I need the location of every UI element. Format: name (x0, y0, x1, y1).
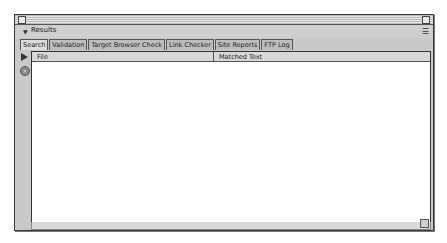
column-header-matched-text[interactable]: Matched Text (214, 52, 430, 62)
side-toolbar: × (19, 52, 29, 76)
tab-bar: Search Validation Target Browser Check L… (20, 39, 294, 50)
resize-grow-box[interactable] (420, 219, 429, 228)
horizontal-scrollbar[interactable] (31, 222, 431, 230)
tab-link-checker[interactable]: Link Checker (166, 39, 214, 50)
stop-icon[interactable]: × (20, 66, 30, 76)
tab-target-browser-check[interactable]: Target Browser Check (88, 39, 165, 50)
zoom-box[interactable] (422, 16, 430, 24)
tab-validation[interactable]: Validation (49, 39, 87, 50)
results-table: File Matched Text (31, 51, 431, 223)
options-menu-icon[interactable]: ☰ (422, 27, 429, 36)
column-header-file[interactable]: File (32, 52, 214, 62)
panel-title: Results (31, 26, 56, 34)
play-icon[interactable] (21, 53, 28, 61)
panel-header: ▼ Results ☰ (15, 25, 433, 38)
results-window: ▼ Results ☰ Search Validation Target Bro… (14, 14, 434, 231)
tab-search[interactable]: Search (20, 39, 48, 50)
disclosure-triangle-icon[interactable]: ▼ (23, 28, 28, 35)
tab-site-reports[interactable]: Site Reports (215, 39, 260, 50)
close-box[interactable] (18, 16, 26, 24)
tab-ftp-log[interactable]: FTP Log (261, 39, 292, 50)
title-bar[interactable] (15, 15, 433, 25)
